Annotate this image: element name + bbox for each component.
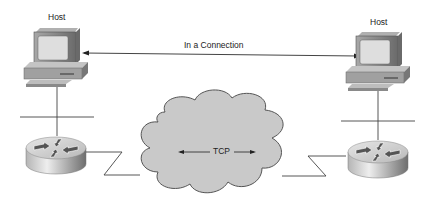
cloud-label: TCP <box>213 146 230 156</box>
right-serial-link <box>282 156 346 176</box>
connection-label: In a Connection <box>184 40 244 50</box>
left-router-icon <box>26 137 86 174</box>
network-diagram: Host Host In a Connection TCP <box>0 0 421 211</box>
right-host-label: Host <box>370 17 387 27</box>
right-router-icon <box>348 141 408 178</box>
right-host-computer-icon <box>346 32 410 91</box>
network-cloud-icon <box>141 90 283 193</box>
connection-arrow <box>82 51 361 59</box>
left-host-computer-icon <box>24 28 88 87</box>
diagram-canvas <box>0 0 421 211</box>
left-serial-link <box>86 152 140 175</box>
left-host-label: Host <box>48 12 65 22</box>
